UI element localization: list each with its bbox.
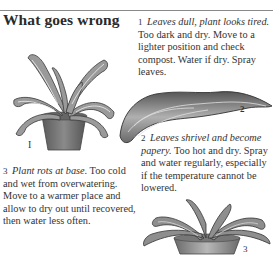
figure-label-2: 2 [240,104,245,114]
problem-heading: Leaves dull, plant looks tired. [147,16,269,27]
page-title: What goes wrong [3,11,120,29]
figure-label-1: I [28,139,31,150]
problem-number: 3 [3,166,8,176]
figure-label-3: 3 [243,244,248,254]
problem-body: Too dark and dry. Move to a lighter posi… [138,29,256,78]
problem-1-text: 1 Leaves dull, plant looks tired. Too da… [138,16,272,79]
problem-number: 1 [138,17,143,27]
plant-tired-illustration [8,38,120,155]
problem-3-text: 3 Plant rots at base. Too cold and wet f… [3,165,138,228]
problem-heading: Plant rots at base. [12,165,87,176]
shrivelled-leaf-illustration [118,84,273,146]
plant-rot-illustration [138,194,273,256]
